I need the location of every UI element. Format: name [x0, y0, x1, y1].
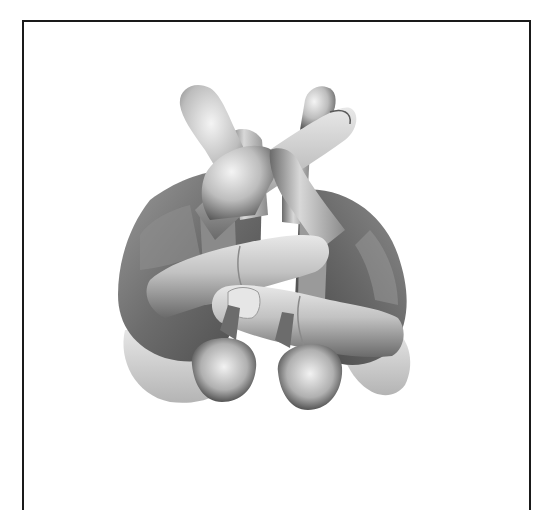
clasped-hands-illustration [0, 0, 549, 500]
